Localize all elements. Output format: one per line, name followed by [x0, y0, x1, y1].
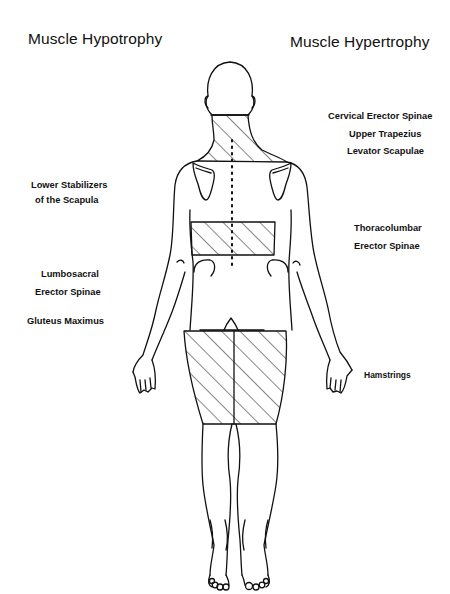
head-outline	[206, 62, 254, 115]
hatched-region-neck-trapezius	[197, 115, 287, 162]
posterior-body-figure	[0, 0, 450, 594]
hatched-region-hamstrings	[184, 331, 287, 424]
